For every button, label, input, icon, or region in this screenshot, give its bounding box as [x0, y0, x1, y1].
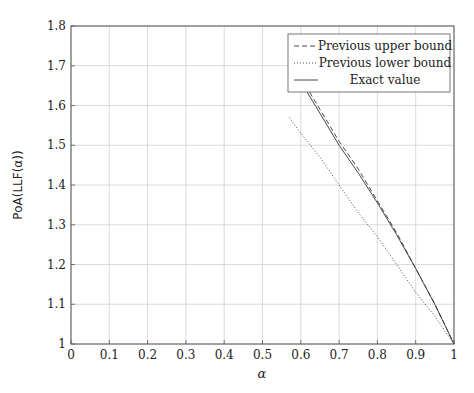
legend-entry: Exact value	[350, 73, 421, 87]
x-tick-label: 0.4	[215, 348, 234, 362]
x-tick-label: 0.7	[330, 348, 349, 362]
y-tick-label: 1.3	[47, 218, 66, 232]
series-line	[289, 117, 454, 344]
x-tick-label: 0.3	[176, 348, 195, 362]
legend-entry: Previous upper bound	[318, 39, 453, 53]
legend: Previous upper boundPrevious lower bound…	[288, 34, 452, 92]
series-line	[289, 62, 454, 344]
series-line	[289, 58, 454, 344]
chart: 00.10.20.30.40.50.60.70.80.91 11.11.21.3…	[0, 0, 474, 393]
x-axis-ticks: 00.10.20.30.40.50.60.70.80.91	[67, 340, 458, 362]
y-tick-label: 1.1	[47, 297, 66, 311]
x-axis-label: α	[258, 366, 267, 381]
y-tick-label: 1.8	[47, 19, 66, 33]
x-tick-label: 0.5	[253, 348, 272, 362]
x-tick-label: 0.1	[100, 348, 119, 362]
x-tick-label: 1	[450, 348, 458, 362]
x-tick-label: 0.2	[138, 348, 157, 362]
y-tick-label: 1.7	[47, 59, 66, 73]
x-tick-label: 0	[67, 348, 75, 362]
y-tick-label: 1	[58, 337, 66, 351]
legend-entry: Previous lower bound	[319, 56, 452, 70]
x-tick-label: 0.9	[406, 348, 425, 362]
y-tick-label: 1.2	[47, 258, 66, 272]
y-tick-label: 1.5	[47, 138, 66, 152]
y-tick-label: 1.4	[47, 178, 66, 192]
x-tick-label: 0.8	[368, 348, 387, 362]
x-tick-label: 0.6	[291, 348, 310, 362]
y-axis-label: PoA(LLF(α))	[11, 150, 25, 219]
data-series	[289, 58, 454, 344]
y-tick-label: 1.6	[47, 99, 66, 113]
